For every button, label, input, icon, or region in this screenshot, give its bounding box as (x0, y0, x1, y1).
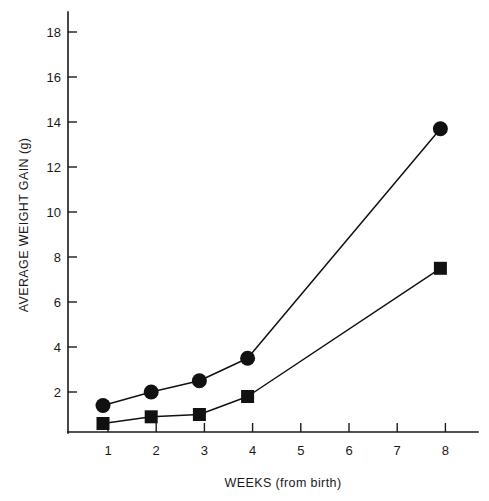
x-tick-label: 5 (297, 443, 304, 458)
x-tick-label: 8 (442, 443, 449, 458)
data-point-circle (96, 398, 111, 413)
y-tick-label: 10 (47, 205, 61, 220)
x-tick-label: 2 (153, 443, 160, 458)
series-line (103, 129, 440, 406)
line-chart: 246810121416182022 12345678 WEEKS (from … (0, 0, 489, 501)
data-point-square (241, 390, 254, 403)
x-tick-label: 7 (394, 443, 401, 458)
y-tick-label: 16 (47, 70, 61, 85)
y-tick-label: 18 (47, 25, 61, 40)
data-point-square (97, 417, 110, 430)
series-line (103, 268, 440, 423)
y-tick-label: 6 (54, 295, 61, 310)
data-point-circle (144, 385, 159, 400)
y-axis-ticks (68, 0, 77, 392)
y-tick-label: 2 (54, 385, 61, 400)
data-point-square (193, 408, 206, 421)
y-tick-label: 4 (54, 340, 61, 355)
x-axis-title: WEEKS (from birth) (225, 476, 342, 490)
data-point-circle (433, 121, 448, 136)
x-axis-ticks (108, 423, 445, 432)
x-axis: 12345678 (68, 423, 478, 458)
data-point-circle (240, 351, 255, 366)
x-tick-label: 4 (249, 443, 256, 458)
y-tick-label: 12 (47, 160, 61, 175)
data-point-square (434, 262, 447, 275)
data-point-circle (192, 373, 207, 388)
y-axis-tick-labels: 246810121416182022 (47, 0, 61, 400)
series-square-series (97, 262, 447, 430)
y-axis: 246810121416182022 (47, 0, 77, 433)
y-axis-title: AVERAGE WEIGHT GAIN (g) (17, 138, 31, 313)
data-point-square (145, 410, 158, 423)
data-series-layer (96, 121, 448, 430)
x-tick-label: 6 (345, 443, 352, 458)
chart-figure: 246810121416182022 12345678 WEEKS (from … (0, 0, 489, 501)
y-tick-label: 14 (47, 115, 61, 130)
x-tick-label: 1 (104, 443, 111, 458)
x-axis-tick-labels: 12345678 (104, 443, 449, 458)
x-tick-label: 3 (201, 443, 208, 458)
series-circle-series (96, 121, 448, 413)
y-tick-label: 8 (54, 250, 61, 265)
